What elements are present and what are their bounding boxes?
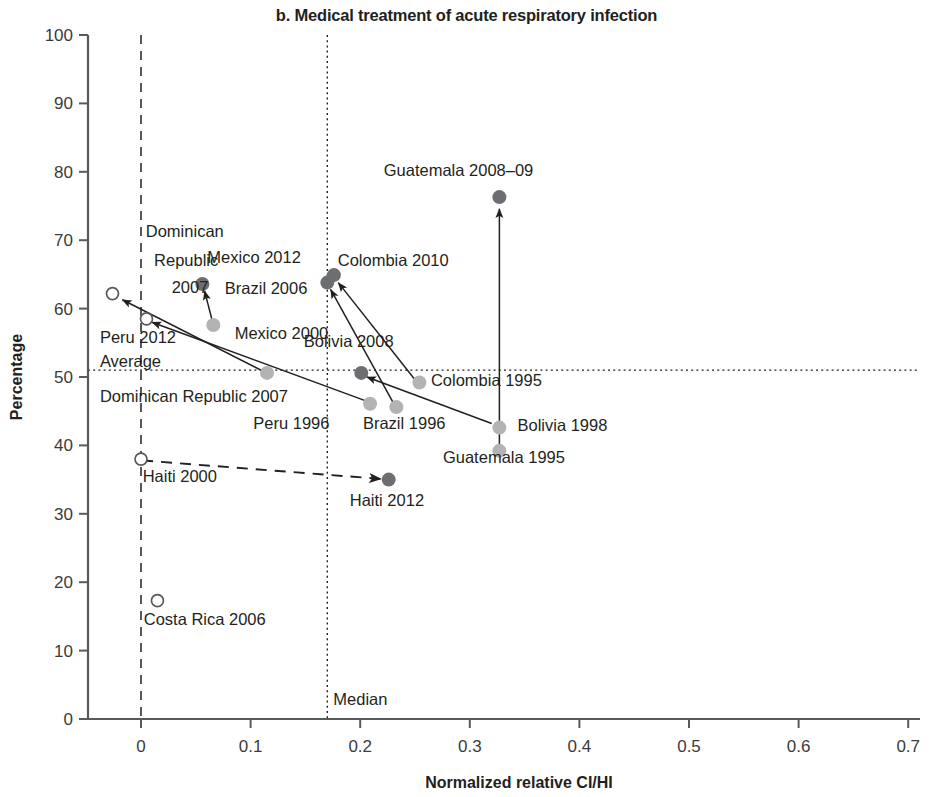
data-point: Peru 1996 (0.209, 46.1) — [363, 397, 377, 411]
y-tick-label: 40 — [54, 436, 73, 455]
data-point: Bolivia 2008 (0.201, 50.6) — [354, 366, 368, 380]
chart-figure: b. Medical treatment of acute respirator… — [0, 0, 933, 797]
label-guatemala-1995: Guatemala 1995 — [443, 448, 565, 466]
data-point: Guatemala 2008-09 (0.327, 76.3) — [492, 190, 506, 204]
x-tick-label: 0 — [136, 737, 145, 756]
y-tick-label: 10 — [54, 642, 73, 661]
label-peru-1996: Peru 1996 — [253, 414, 329, 432]
data-point: Costa Rica 2006 (0.015, 17.3) — [151, 595, 163, 607]
y-tick-label: 30 — [54, 505, 73, 524]
label-dominican-republic-2007-left: Dominican — [146, 222, 224, 240]
data-point: Dominican Republic 2007 (endpoint) (0.11… — [260, 366, 274, 380]
x-tick-label: 0.4 — [568, 737, 592, 756]
y-tick-label: 70 — [54, 231, 73, 250]
label-guatemala-2008-09: Guatemala 2008–09 — [384, 161, 534, 179]
data-point: Colombia 2010 (0.176, 64.9) — [327, 268, 341, 282]
label-bolivia-1998: Bolivia 1998 — [517, 416, 607, 434]
label-bolivia-2008: Bolivia 2008 — [304, 332, 394, 350]
point-labels-group: DominicanRepublic2007Mexico 2012Colombia… — [100, 161, 607, 708]
x-tick-label: 0.1 — [239, 737, 263, 756]
data-point: Dominican Republic 2007 (-0.026, 62.2) — [107, 288, 119, 300]
label-haiti-2012: Haiti 2012 — [350, 491, 424, 509]
label-haiti-2000: Haiti 2000 — [143, 467, 217, 485]
label-colombia-2010: Colombia 2010 — [338, 251, 449, 269]
y-tick-label: 0 — [64, 710, 73, 729]
x-tick-label: 0.6 — [787, 737, 811, 756]
y-tick-label: 90 — [54, 94, 73, 113]
label-brazil-1996: Brazil 1996 — [363, 414, 446, 432]
scatter-plot-canvas: 010203040506070809010000.10.20.30.40.50.… — [0, 0, 933, 797]
label-dominican-republic-2007-left3: 2007 — [172, 278, 209, 296]
label-costa-rica-2006: Costa Rica 2006 — [144, 610, 266, 628]
data-point: Haiti 2000 (0, 38) — [135, 453, 147, 465]
y-axis-title: Percentage — [8, 334, 25, 420]
x-tick-label: 0.7 — [896, 737, 920, 756]
data-point: Bolivia 1998 (0.327, 42.6) — [492, 421, 506, 435]
x-tick-label: 0.3 — [458, 737, 482, 756]
label-peru-2012: Peru 2012 — [100, 328, 176, 346]
x-axis-title: Normalized relative CI/HI — [425, 774, 613, 791]
data-point: Mexico 2000 (0.066, 57.6) — [206, 318, 220, 332]
y-tick-label: 80 — [54, 163, 73, 182]
data-point: Haiti 2012 (0.226, 35) — [382, 473, 396, 487]
x-tick-label: 0.2 — [348, 737, 372, 756]
y-tick-label: 20 — [54, 573, 73, 592]
data-point: Colombia 1995 (0.254, 49.2) — [412, 375, 426, 389]
data-point: Brazil 1996 (0.233, 45.6) — [389, 400, 403, 414]
label-colombia-1995: Colombia 1995 — [431, 371, 542, 389]
x-tick-label: 0.5 — [677, 737, 701, 756]
y-tick-label: 100 — [45, 26, 73, 45]
label-median: Median — [333, 690, 387, 708]
label-mexico-2012: Mexico 2012 — [207, 248, 301, 266]
y-tick-label: 60 — [54, 300, 73, 319]
label-brazil-2006: Brazil 2006 — [225, 279, 308, 297]
y-tick-label: 50 — [54, 368, 73, 387]
axis-titles-group: Normalized relative CI/HIPercentage — [8, 334, 613, 791]
data-point: Peru 2012 (0.005, 58.5) — [140, 313, 152, 325]
label-dominican-republic-2007-low: Dominican Republic 2007 — [100, 387, 288, 405]
label-average: Average — [100, 352, 161, 370]
